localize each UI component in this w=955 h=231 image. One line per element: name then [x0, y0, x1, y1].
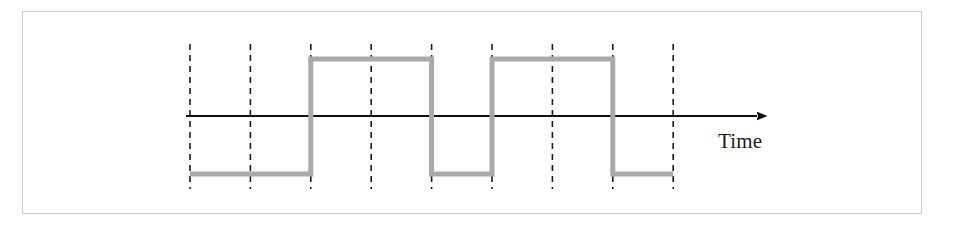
time-axis-label: Time	[718, 129, 762, 153]
figure-root: Time	[0, 0, 955, 231]
waveform-diagram: Time	[0, 0, 955, 231]
